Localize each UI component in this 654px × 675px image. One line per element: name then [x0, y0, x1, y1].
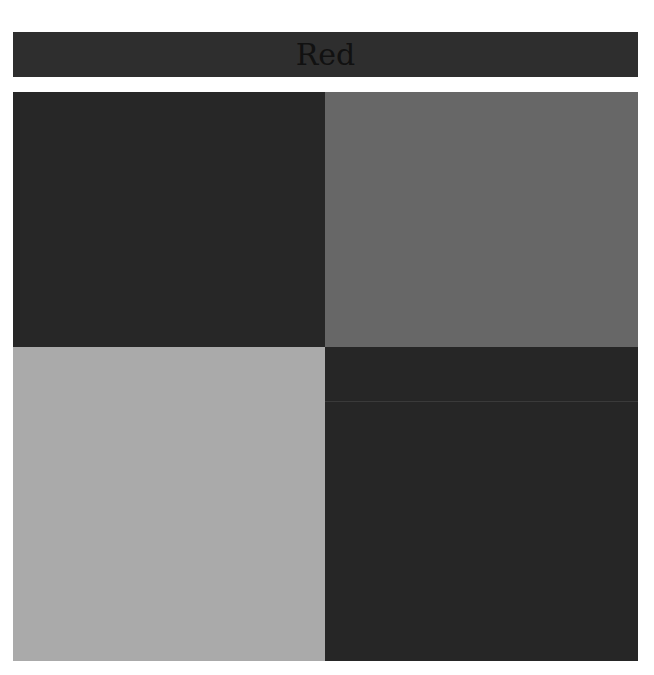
title-bar: Red	[13, 32, 638, 77]
divider-line	[325, 401, 638, 402]
cell-bottom-right	[325, 347, 638, 661]
color-grid	[13, 92, 638, 661]
title-text: Red	[296, 40, 356, 70]
cell-top-left	[13, 92, 325, 347]
cell-top-right	[325, 92, 638, 347]
cell-bottom-left	[13, 347, 325, 661]
